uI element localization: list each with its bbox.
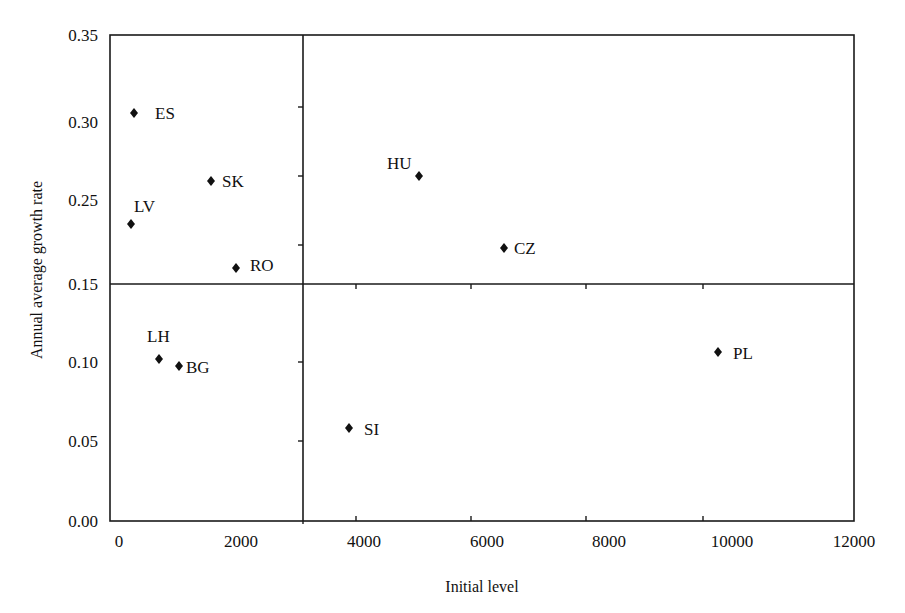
point-label: HU (387, 154, 412, 173)
point-label: CZ (514, 239, 536, 258)
data-point-lv: LV (127, 197, 156, 229)
point-label: LV (134, 197, 156, 216)
axis-ticks (298, 107, 703, 524)
diamond-marker-icon (207, 176, 215, 186)
scatter-chart: 020004000600080001000012000 0.000.050.10… (0, 0, 905, 613)
x-tick-labels: 020004000600080001000012000 (115, 532, 876, 551)
point-label: SK (222, 172, 244, 191)
x-tick-label: 6000 (470, 532, 504, 551)
diamond-marker-icon (232, 263, 240, 273)
diamond-marker-icon (130, 108, 138, 118)
diamond-marker-icon (155, 354, 163, 364)
x-tick-label: 8000 (592, 532, 626, 551)
point-label: RO (250, 256, 274, 275)
data-point-bg: BG (175, 358, 210, 377)
x-tick-label: 4000 (347, 532, 381, 551)
diamond-marker-icon (127, 219, 135, 229)
x-tick-label: 0 (115, 532, 124, 551)
data-point-sk: SK (207, 172, 244, 191)
diamond-marker-icon (415, 171, 423, 181)
x-tick-label: 12000 (833, 532, 876, 551)
y-tick-label: 0.35 (68, 26, 98, 45)
data-point-cz: CZ (500, 239, 536, 258)
point-label: ES (155, 104, 175, 123)
data-point-si: SI (345, 420, 379, 439)
y-tick-label: 0.00 (68, 512, 98, 531)
y-tick-label: 0.10 (68, 353, 98, 372)
plot-frame (110, 35, 854, 521)
x-axis-title: Initial level (445, 578, 519, 595)
point-label: BG (186, 358, 210, 377)
data-point-pl: PL (714, 344, 753, 363)
y-tick-labels: 0.000.050.100.150.250.300.35 (68, 26, 98, 531)
y-tick-label: 0.05 (68, 432, 98, 451)
data-point-hu: HU (387, 154, 423, 181)
y-tick-label: 0.30 (68, 113, 98, 132)
x-tick-label: 2000 (224, 532, 258, 551)
y-tick-label: 0.25 (68, 191, 98, 210)
data-point-lh: LH (147, 327, 170, 364)
point-label: SI (364, 420, 379, 439)
diamond-marker-icon (345, 423, 353, 433)
plot-border (110, 35, 854, 521)
diamond-marker-icon (175, 361, 183, 371)
y-tick-label: 0.15 (68, 275, 98, 294)
data-point-ro: RO (232, 256, 274, 275)
x-tick-label: 10000 (711, 532, 754, 551)
point-label: LH (147, 327, 170, 346)
point-label: PL (733, 344, 753, 363)
data-points: ESSKLVROHUCZLHBGSIPL (127, 104, 753, 439)
y-axis-title: Annual average growth rate (28, 181, 46, 359)
diamond-marker-icon (714, 347, 722, 357)
data-point-es: ES (130, 104, 175, 123)
diamond-marker-icon (500, 243, 508, 253)
